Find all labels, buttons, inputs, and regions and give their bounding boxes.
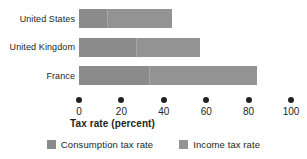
- x-tick-label: 60: [201, 106, 212, 117]
- legend-label: Income tax rate: [193, 139, 260, 150]
- x-tick-dot: [246, 97, 252, 103]
- bar-segment-divider: [107, 9, 108, 28]
- bar-segment-consumption[interactable]: [79, 66, 149, 85]
- category-axis-labels: United States United Kingdom France: [0, 0, 75, 95]
- x-tick-label: 20: [116, 106, 127, 117]
- bar-segment-consumption[interactable]: [79, 38, 136, 57]
- x-tick-dot: [288, 97, 294, 103]
- legend-swatch-icon: [179, 140, 188, 149]
- category-label-united-kingdom: United Kingdom: [0, 42, 75, 53]
- category-label-united-states: United States: [0, 14, 75, 25]
- x-tick-label: 100: [283, 106, 300, 117]
- bar-segment-income[interactable]: [107, 9, 173, 28]
- tax-rate-stacked-bar-chart: United States United Kingdom France 0204…: [0, 0, 307, 159]
- x-tick-dot: [118, 97, 124, 103]
- x-axis-title: Tax rate (percent): [70, 118, 155, 129]
- bar-segment-consumption[interactable]: [79, 9, 107, 28]
- x-tick-dot: [76, 97, 82, 103]
- x-tick-label: 80: [243, 106, 254, 117]
- x-tick-label: 0: [76, 106, 82, 117]
- category-label-france: France: [0, 71, 75, 82]
- legend-item-income[interactable]: Income tax rate: [179, 139, 260, 150]
- x-tick-dot: [203, 97, 209, 103]
- bar-segment-divider: [136, 38, 137, 57]
- legend-label: Consumption tax rate: [61, 139, 153, 150]
- legend-swatch-icon: [47, 140, 56, 149]
- bar-segment-income[interactable]: [136, 38, 200, 57]
- x-axis: 020406080100: [79, 97, 291, 137]
- bar-segment-income[interactable]: [149, 66, 257, 85]
- x-tick-dot: [161, 97, 167, 103]
- chart-legend: Consumption tax rate Income tax rate: [0, 136, 307, 152]
- legend-item-consumption[interactable]: Consumption tax rate: [47, 139, 153, 150]
- bar-segment-divider: [149, 66, 150, 85]
- plot-area: [79, 0, 291, 95]
- x-tick-label: 40: [158, 106, 169, 117]
